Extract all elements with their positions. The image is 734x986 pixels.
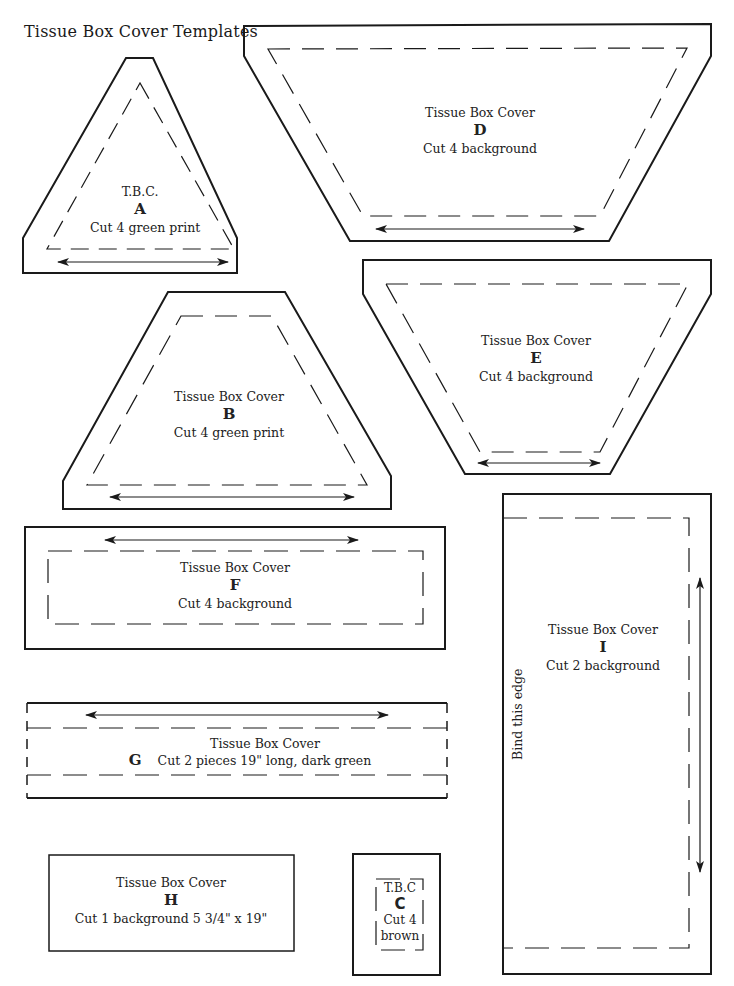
template-a-shape — [23, 58, 237, 273]
template-page: Tissue Box Cover Templates — [0, 0, 734, 986]
template-c-line2: Cut 4 — [370, 912, 430, 928]
template-h-line2: Cut 1 background 5 3/4" x 19" — [71, 910, 271, 927]
template-f-label: Tissue Box Cover F Cut 4 background — [160, 559, 310, 612]
template-a-letter: A — [90, 200, 190, 219]
template-e-line1: Tissue Box Cover — [461, 332, 611, 349]
template-c-letter: C — [370, 896, 430, 912]
template-d-label: Tissue Box Cover D Cut 4 background — [405, 104, 555, 157]
template-f-letter: F — [160, 576, 310, 595]
template-b-line2: Cut 4 green print — [154, 424, 304, 441]
template-a-line1: T.B.C. — [90, 183, 190, 200]
template-a-label: T.B.C. A Cut 4 green print — [90, 183, 190, 236]
template-g-line1: Tissue Box Cover — [120, 735, 380, 752]
template-i-line2: Cut 2 background — [538, 657, 668, 674]
template-f-line1: Tissue Box Cover — [160, 559, 310, 576]
template-d-letter: D — [405, 121, 555, 140]
template-c-line3: brown — [370, 928, 430, 944]
template-b-letter: B — [154, 405, 304, 424]
template-shapes — [0, 0, 734, 986]
template-e-line2: Cut 4 background — [461, 368, 611, 385]
template-a-line2: Cut 4 green print — [90, 219, 190, 236]
template-c-line1: T.B.C — [370, 880, 430, 896]
template-d-line2: Cut 4 background — [405, 140, 555, 157]
template-f-line2: Cut 4 background — [160, 595, 310, 612]
template-b-label: Tissue Box Cover B Cut 4 green print — [154, 388, 304, 441]
template-e-letter: E — [461, 349, 611, 368]
template-g-row: GCut 2 pieces 19" long, dark green — [120, 752, 380, 769]
template-i-shape — [503, 494, 711, 974]
template-e-label: Tissue Box Cover E Cut 4 background — [461, 332, 611, 385]
bind-edge-note: Bind this edge — [510, 669, 525, 760]
template-h-letter: H — [71, 891, 271, 910]
template-h-label: Tissue Box Cover H Cut 1 background 5 3/… — [71, 874, 271, 927]
template-h-line1: Tissue Box Cover — [71, 874, 271, 891]
template-d-line1: Tissue Box Cover — [405, 104, 555, 121]
template-c-label: T.B.C C Cut 4 brown — [370, 880, 430, 944]
template-i-letter: I — [538, 638, 668, 657]
template-g-letter: G — [129, 751, 142, 769]
template-g-label: Tissue Box Cover GCut 2 pieces 19" long,… — [120, 735, 380, 769]
template-g-line2: Cut 2 pieces 19" long, dark green — [158, 753, 372, 768]
template-i-label: Tissue Box Cover I Cut 2 background — [538, 621, 668, 674]
template-b-line1: Tissue Box Cover — [154, 388, 304, 405]
template-i-line1: Tissue Box Cover — [538, 621, 668, 638]
